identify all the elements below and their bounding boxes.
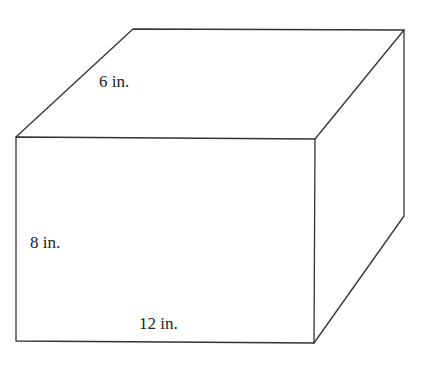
height-label: 8 in. bbox=[30, 234, 60, 251]
depth-label: 6 in. bbox=[99, 73, 129, 90]
front-face bbox=[16, 137, 315, 343]
length-label: 12 in. bbox=[139, 315, 178, 332]
rectangular-prism-diagram bbox=[0, 0, 428, 367]
right-face bbox=[314, 30, 404, 343]
top-face bbox=[16, 29, 404, 139]
